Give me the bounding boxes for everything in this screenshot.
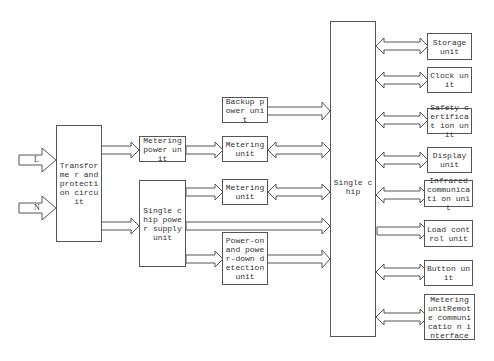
safety-label: Safety certificat ion unit: [429, 103, 470, 139]
power-detection-label: Power-on and power-down detection unit: [224, 236, 266, 281]
display-label: Display unit: [429, 151, 470, 169]
transformer-label: Transforme r and protection circuit: [58, 161, 100, 206]
metering-unit-1-label: Metering unit: [224, 140, 266, 158]
clock-unit: Clock unit: [427, 67, 472, 93]
power-detection-unit: Power-on and power-down detection unit: [222, 232, 268, 285]
infrared-communication-unit: Infrared communicati on unit: [424, 180, 473, 207]
infrared-label: Infrared communicati on unit: [426, 176, 471, 212]
load-control-label: Load control unit: [426, 225, 471, 243]
remote-comm-label: Metering unitRemote communicatio n inter…: [426, 295, 473, 340]
button-label: Button unit: [426, 264, 471, 282]
metering-unit-1: Metering unit: [222, 136, 268, 162]
backup-power-label: Backup power unit: [224, 97, 266, 124]
clock-label: Clock unit: [429, 71, 470, 89]
metering-power-unit: Metering power unit: [139, 136, 186, 162]
single-chip-label: Single chip: [332, 178, 374, 196]
safety-certification-unit: Safety certificat ion unit: [427, 108, 472, 134]
metering-unit-2-label: Metering unit: [224, 183, 266, 201]
button-unit: Button unit: [424, 260, 473, 286]
single-chip-power-label: Single chip power supply unit: [141, 206, 184, 242]
input-label-L: L: [34, 155, 39, 164]
storage-label: Storage unit: [429, 38, 470, 56]
input-label-N: N: [34, 203, 40, 212]
metering-power-label: Metering power unit: [141, 136, 184, 163]
storage-unit: Storage unit: [427, 33, 472, 60]
block-diagram: L N Transforme r and protection circuit …: [0, 0, 494, 361]
display-unit: Display unit: [427, 147, 472, 173]
backup-power-unit: Backup power unit: [222, 97, 268, 123]
load-control-unit: Load control unit: [424, 220, 473, 247]
transformer-protection-circuit: Transforme r and protection circuit: [56, 125, 102, 242]
metering-unit-2: Metering unit: [222, 179, 268, 205]
single-chip: Single chip: [330, 21, 376, 337]
single-chip-power-supply-unit: Single chip power supply unit: [139, 180, 186, 267]
remote-communication-interface: Metering unitRemote communicatio n inter…: [424, 294, 475, 340]
